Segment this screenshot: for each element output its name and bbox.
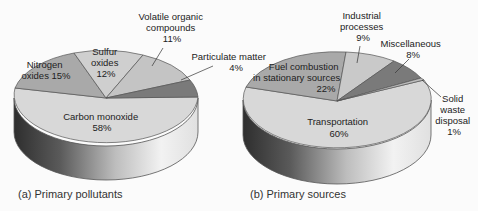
leader-line-particulate <box>181 66 213 80</box>
label-solid-waste-disposal: Solid waste disposal 1% <box>435 93 473 137</box>
label-miscellaneous: Miscellaneous 8% <box>381 38 444 60</box>
label-nitrogen-oxides: Nitrogen oxides 15% <box>21 59 71 81</box>
caption-primary-sources: (b) Primary sources <box>250 188 346 200</box>
label-particulate-matter: Particulate matter 4% <box>191 51 268 73</box>
pie-primary-pollutants: Carbon monoxide 58% Nitrogen oxides 15% … <box>14 11 269 180</box>
label-industrial-processes: Industrial processes 9% <box>340 10 386 43</box>
caption-primary-pollutants: (a) Primary pollutants <box>18 188 123 200</box>
label-volatile-organic-compounds: Volatile organic compounds 11% <box>138 11 205 44</box>
pie-charts-figure: Carbon monoxide 58% Nitrogen oxides 15% … <box>0 0 478 211</box>
pie-primary-sources: Transportation 60% Fuel combustion in st… <box>243 10 473 184</box>
